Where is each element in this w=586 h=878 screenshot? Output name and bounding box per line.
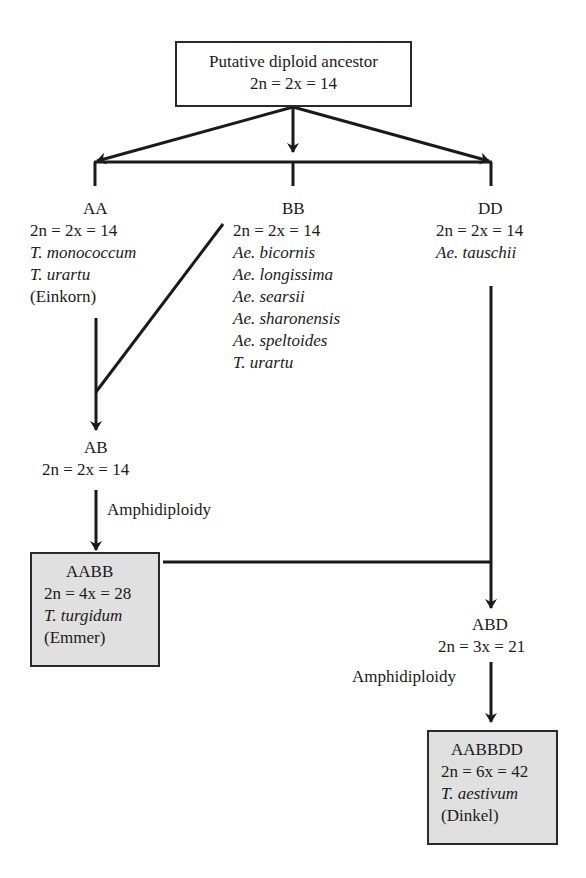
abd-node: ABD 2n = 3x = 21 bbox=[438, 614, 578, 658]
aa-species-1: T. monococcum bbox=[30, 242, 200, 264]
aabbdd-chromosomes: 2n = 6x = 42 bbox=[441, 761, 556, 783]
aa-node: AA 2n = 2x = 14 T. monococcum T. urartu … bbox=[30, 198, 200, 308]
aabbdd-node: AABBDD 2n = 6x = 42 T. aestivum (Dinkel) bbox=[441, 739, 556, 827]
ab-genome: AB bbox=[42, 437, 182, 459]
aabb-species: T. turgidum bbox=[44, 605, 159, 627]
ancestor-title: Putative diploid ancestor bbox=[175, 51, 412, 73]
dd-node: DD 2n = 2x = 14 Ae. tauschii bbox=[436, 198, 576, 264]
abd-chromosomes: 2n = 3x = 21 bbox=[438, 636, 578, 658]
aabbdd-genome: AABBDD bbox=[441, 739, 556, 761]
aabbdd-species: T. aestivum bbox=[441, 783, 556, 805]
arrow-to-aa bbox=[97, 107, 293, 161]
ancestor-node: Putative diploid ancestor 2n = 2x = 14 bbox=[175, 51, 412, 95]
ab-node: AB 2n = 2x = 14 bbox=[42, 437, 182, 481]
ancestor-chromosomes: 2n = 2x = 14 bbox=[175, 73, 412, 95]
bb-node: BB 2n = 2x = 14 Ae. bicornis Ae. longiss… bbox=[233, 198, 403, 374]
aa-genome: AA bbox=[30, 198, 200, 220]
aa-common-name: (Einkorn) bbox=[30, 286, 200, 308]
bb-chromosomes: 2n = 2x = 14 bbox=[233, 220, 403, 242]
amphidiploidy-label-2: Amphidiploidy bbox=[352, 666, 456, 688]
bb-genome: BB bbox=[233, 198, 403, 220]
aa-species-2: T. urartu bbox=[30, 264, 200, 286]
dd-species-1: Ae. tauschii bbox=[436, 242, 576, 264]
abd-genome: ABD bbox=[438, 614, 578, 636]
dd-genome: DD bbox=[436, 198, 576, 220]
aabb-chromosomes: 2n = 4x = 28 bbox=[44, 583, 159, 605]
aabb-node: AABB 2n = 4x = 28 T. turgidum (Emmer) bbox=[44, 561, 159, 649]
ab-chromosomes: 2n = 2x = 14 bbox=[42, 459, 182, 481]
bb-species-5: Ae. speltoides bbox=[233, 330, 403, 352]
amphidiploidy-label-1: Amphidiploidy bbox=[107, 499, 211, 521]
bb-species-2: Ae. longissima bbox=[233, 264, 403, 286]
aabb-common-name: (Emmer) bbox=[44, 627, 159, 649]
bb-species-6: T. urartu bbox=[233, 352, 403, 374]
aabbdd-common-name: (Dinkel) bbox=[441, 805, 556, 827]
bb-species-3: Ae. searsii bbox=[233, 286, 403, 308]
bb-species-4: Ae. sharonensis bbox=[233, 308, 403, 330]
dd-chromosomes: 2n = 2x = 14 bbox=[436, 220, 576, 242]
aabb-genome: AABB bbox=[44, 561, 159, 583]
bb-species-1: Ae. bicornis bbox=[233, 242, 403, 264]
arrow-to-dd bbox=[293, 107, 489, 161]
aa-chromosomes: 2n = 2x = 14 bbox=[30, 220, 200, 242]
